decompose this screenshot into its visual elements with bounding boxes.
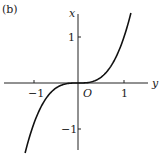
y-tick-label-1: 1	[68, 31, 75, 44]
y-tick-label-neg1: −1	[61, 123, 77, 136]
x-tick-label-1: 1	[121, 87, 128, 100]
vertical-axis-label: x	[69, 7, 76, 20]
origin-label: O	[83, 87, 92, 100]
panel-label: (b)	[2, 3, 18, 16]
x-tick-label-neg1: −1	[28, 87, 44, 100]
horizontal-axis-label: y	[151, 77, 159, 90]
chart: (b) −1 1 1 −1 O y x	[0, 0, 163, 155]
